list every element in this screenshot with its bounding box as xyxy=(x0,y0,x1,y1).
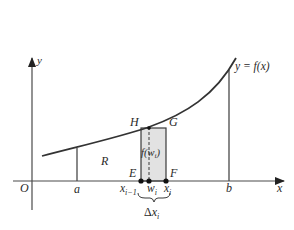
w-i-label: wi xyxy=(147,182,157,197)
corner-label-f: F xyxy=(169,166,178,180)
corner-label-e: E xyxy=(128,166,137,180)
region-label: R xyxy=(100,154,109,168)
x-i-label: xi xyxy=(163,182,171,197)
x-axis-label: x xyxy=(276,181,283,195)
height-label-close: ) xyxy=(155,147,160,159)
delta-x-label: Δxi xyxy=(144,205,159,221)
curve-f xyxy=(42,58,236,156)
x-i-minus-1-sub: i−1 xyxy=(125,188,137,197)
corner-label-g: G xyxy=(169,115,178,129)
x-i-minus-1-label: xi−1 xyxy=(119,182,137,197)
x-i-sub: i xyxy=(169,188,171,197)
delta-x-sub: i xyxy=(157,212,159,221)
bound-b-label: b xyxy=(226,181,232,195)
origin-label: O xyxy=(20,181,29,195)
height-label-f: f(w xyxy=(141,147,154,159)
riemann-sum-diagram: y x O a b y = f(x) R H G E F f(wi) xi−1 … xyxy=(0,0,294,230)
corner-label-h: H xyxy=(129,115,140,129)
curve-label: y = f(x) xyxy=(234,60,270,73)
w-i-sub: i xyxy=(155,188,157,197)
bound-a-label: a xyxy=(74,182,80,196)
point-x-i-minus-1 xyxy=(138,178,143,183)
point-on-curve xyxy=(147,126,151,130)
y-axis-label: y xyxy=(36,54,42,66)
